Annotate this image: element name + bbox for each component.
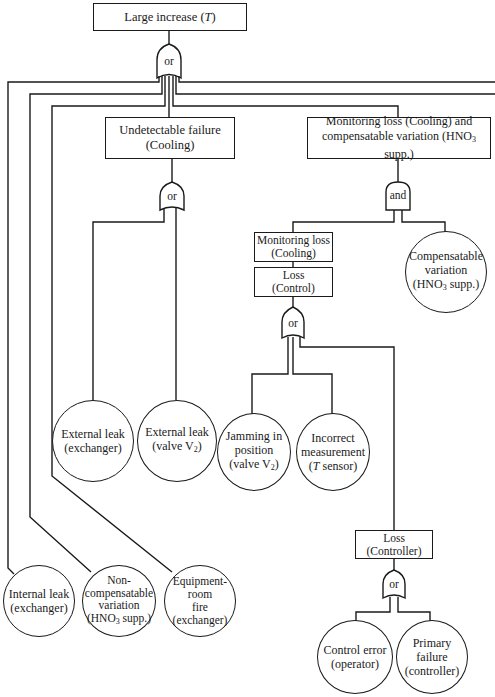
event-line: External leak: [61, 427, 125, 441]
basic-equipment-room-fire: Equipment- room fire (exchanger): [164, 565, 236, 637]
event-line: (Cooling): [271, 247, 316, 260]
event-line: (Controller): [367, 545, 422, 558]
event-line: Incorrect: [311, 431, 354, 445]
event-line: Jamming in: [226, 429, 282, 443]
undetectable-or-gate: or: [160, 190, 184, 202]
event-line: Compensatable: [409, 249, 483, 263]
top-event-label: Large increase (T): [124, 10, 215, 25]
event-line: (exchanger): [10, 601, 67, 615]
basic-control-error: Control error (operator): [317, 620, 393, 694]
event-line: Monitoring loss (Cooling) and: [326, 114, 472, 129]
basic-non-compensatable-variation: Non- compensatable variation (HNO3 supp.…: [82, 565, 156, 637]
top-or-gate: or: [157, 55, 181, 67]
event-line: variation: [425, 263, 468, 277]
event-monitoring-and-compensatable: Monitoring loss (Cooling) and compensata…: [307, 117, 491, 159]
event-line: Monitoring loss: [257, 234, 330, 247]
top-event-large-increase: Large increase (T): [93, 3, 247, 31]
basic-jamming-in-position: Jamming in position (valve V2): [217, 413, 291, 491]
event-line: Undetectable failure: [119, 123, 221, 138]
event-line: External leak: [145, 425, 209, 439]
event-line: Control error: [324, 643, 387, 657]
event-line: Primary: [413, 636, 452, 650]
event-line: (Cooling): [146, 138, 195, 153]
basic-internal-leak: Internal leak (exchanger): [3, 565, 75, 637]
event-line: (HNO3 supp.): [87, 612, 151, 629]
monitoring-and-gate: and: [384, 189, 412, 201]
event-line: Internal leak: [9, 587, 69, 601]
event-line: Loss: [283, 269, 305, 282]
event-loss-control: Loss (Control): [254, 267, 333, 297]
event-undetectable-failure: Undetectable failure (Cooling): [105, 117, 235, 159]
basic-incorrect-measurement: Incorrect measurement (T sensor): [296, 413, 370, 491]
event-line: Non-: [107, 574, 131, 587]
event-line: (Control): [272, 282, 315, 295]
event-line: (valve V2): [152, 439, 201, 457]
event-line: fire (exchanger): [165, 601, 235, 627]
event-line: position: [235, 443, 274, 457]
basic-external-leak-valve: External leak (valve V2): [137, 400, 217, 482]
event-line: (exchanger): [64, 441, 121, 455]
event-line: variation: [99, 599, 140, 612]
event-line: (T sensor): [309, 459, 357, 473]
event-line: (HNO3 supp.): [413, 277, 480, 295]
event-line: measurement: [301, 445, 365, 459]
event-loss-controller: Loss (Controller): [355, 530, 433, 559]
event-line: failure: [416, 650, 447, 664]
loss-control-or-gate: or: [282, 317, 304, 329]
basic-external-leak-exchanger: External leak (exchanger): [52, 400, 134, 482]
event-line: room: [188, 588, 212, 601]
basic-primary-failure: Primary failure (controller): [396, 620, 468, 694]
event-monitoring-loss: Monitoring loss (Cooling): [254, 232, 333, 262]
basic-compensatable-variation: Compensatable variation (HNO3 supp.): [405, 231, 487, 313]
event-line: Equipment-: [173, 575, 227, 588]
loss-controller-or-gate: or: [383, 578, 405, 590]
event-line: (valve V2): [229, 457, 278, 475]
event-line: compensatable variation (HNO3 supp.): [308, 129, 490, 162]
event-line: Loss: [383, 532, 405, 545]
event-line: (operator): [331, 657, 379, 671]
event-line: (controller): [405, 664, 460, 678]
event-line: compensatable: [85, 587, 153, 600]
fault-tree-connectors: [0, 0, 495, 697]
